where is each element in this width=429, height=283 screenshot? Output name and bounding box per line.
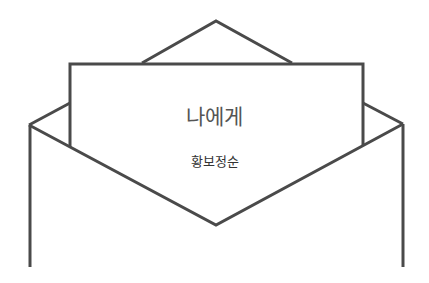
letter-title: 나에게 — [0, 100, 429, 130]
letter-author: 황보정순 — [0, 151, 429, 170]
envelope-illustration — [0, 0, 429, 283]
envelope-back-flap — [142, 21, 292, 63]
